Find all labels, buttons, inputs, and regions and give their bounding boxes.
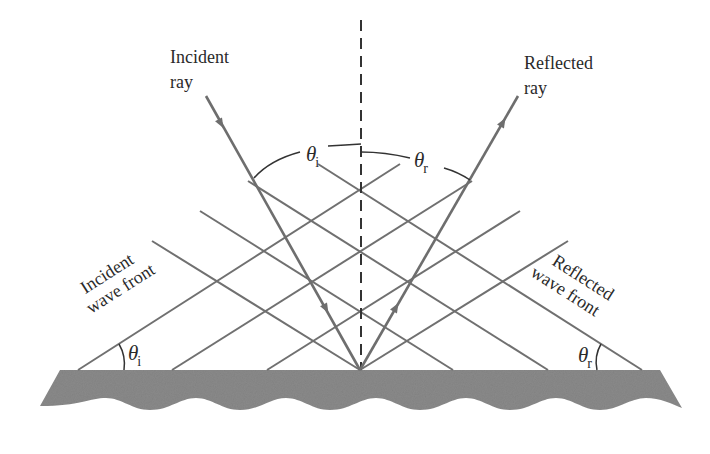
theta-r-label-top: θr [414,148,428,176]
reflected-wavefront-3 [200,211,453,370]
reflected-ray-label-line2: ray [524,78,547,98]
incident-wavefront-label: Incident wave front [72,242,159,317]
theta-r-arc-bottom [596,344,601,370]
incident-wavefront-3 [267,211,520,370]
theta-r-label-bottom: θr [578,343,592,371]
reflection-diagram: θi θr θi θr Incident ray Reflected ray I… [0,0,710,454]
theta-i-label-top: θi [306,142,319,170]
theta-i-arc-top [254,152,300,178]
reflected-wavefront-label: Reflected wave front [527,244,617,322]
incident-ray [206,96,360,370]
incident-wavefront-2 [172,181,472,370]
incident-wavefront-4 [360,241,568,370]
reflected-wavefront-4 [152,241,360,370]
reflecting-surface [40,370,682,410]
incident-ray-label-line1: Incident [170,47,229,67]
theta-i-label-bottom: θi [128,341,141,369]
reflected-wavefront-1 [318,164,642,370]
reflected-ray-label-line1: Reflected [524,53,593,73]
reflected-ray [360,96,518,370]
reflected-wavefront-2 [248,181,548,370]
theta-r-arc-top [361,152,410,158]
incident-ray-label-line2: ray [170,72,193,92]
theta-i-arc-bottom [119,344,124,370]
